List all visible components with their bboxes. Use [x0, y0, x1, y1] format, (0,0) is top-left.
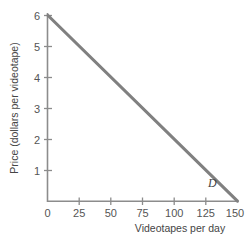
x-axis-title: Videotapes per day — [135, 222, 226, 234]
y-tick-label-2: 2 — [34, 134, 40, 146]
y-axis-tick-labels: 1 2 3 4 5 6 — [34, 10, 40, 177]
x-tick-label-50: 50 — [105, 207, 117, 219]
demand-curve-line — [48, 16, 238, 202]
x-axis-tick-labels: 0 25 50 75 100 125 150 — [44, 207, 244, 219]
x-tick-label-100: 100 — [165, 207, 183, 219]
y-tick-label-3: 3 — [34, 103, 40, 115]
chart-canvas: 1 2 3 4 5 6 0 25 50 75 100 125 150 D Vid… — [0, 0, 247, 241]
x-tick-label-150: 150 — [226, 207, 244, 219]
x-tick-label-125: 125 — [197, 207, 215, 219]
y-tick-label-6: 6 — [34, 10, 40, 22]
x-tick-label-25: 25 — [73, 207, 85, 219]
y-tick-label-1: 1 — [34, 165, 40, 177]
y-tick-label-5: 5 — [34, 41, 40, 53]
x-tick-label-0: 0 — [44, 207, 50, 219]
y-tick-label-4: 4 — [34, 72, 40, 84]
demand-curve-figure: 1 2 3 4 5 6 0 25 50 75 100 125 150 D Vid… — [0, 0, 247, 241]
y-axis-title: Price (dollars per videotape) — [8, 42, 20, 173]
demand-curve-label: D — [207, 176, 217, 190]
x-tick-label-75: 75 — [136, 207, 148, 219]
